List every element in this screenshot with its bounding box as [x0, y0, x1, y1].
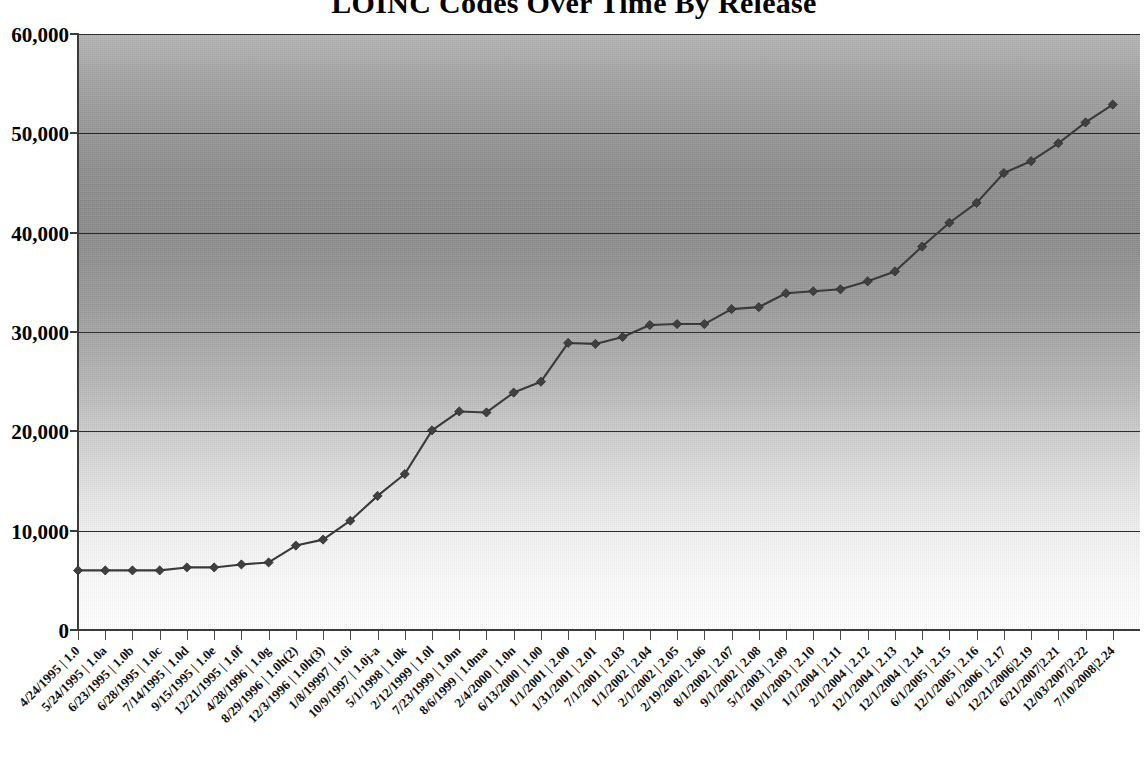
y-axis-tick-label: 20,000	[0, 420, 69, 445]
y-axis-tick-label: 0	[0, 619, 69, 644]
x-axis-tick-mark	[813, 631, 814, 640]
x-axis-tick-mark	[650, 631, 651, 640]
x-axis-tick-mark	[840, 631, 841, 640]
x-axis-tick-mark	[241, 631, 242, 640]
x-axis-tick-mark	[786, 631, 787, 640]
x-axis-tick-mark	[759, 631, 760, 640]
data-series-layer	[78, 34, 1140, 630]
data-point-marker[interactable]	[73, 566, 82, 575]
data-point-marker[interactable]	[754, 303, 763, 312]
x-axis-tick-mark	[187, 631, 188, 640]
series-line	[78, 105, 1113, 571]
x-axis-tick-mark	[677, 631, 678, 640]
x-axis-tick-mark	[296, 631, 297, 640]
x-axis-tick-mark	[514, 631, 515, 640]
x-axis-tick-mark	[1058, 631, 1059, 640]
x-axis-tick-mark	[1004, 631, 1005, 640]
x-axis-tick-mark	[214, 631, 215, 640]
y-axis-tick-label: 30,000	[0, 321, 69, 346]
x-axis-tick-mark	[132, 631, 133, 640]
x-axis-tick-mark	[78, 631, 79, 640]
x-axis-tick-mark	[405, 631, 406, 640]
data-point-marker[interactable]	[210, 563, 219, 572]
data-point-marker[interactable]	[700, 319, 709, 328]
x-axis-tick-mark	[568, 631, 569, 640]
x-axis-tick-mark	[160, 631, 161, 640]
x-axis-tick-mark	[541, 631, 542, 640]
x-axis-tick-mark	[350, 631, 351, 640]
y-axis-tick-label: 40,000	[0, 222, 69, 247]
y-axis-tick-label: 60,000	[0, 23, 69, 48]
data-point-marker[interactable]	[101, 566, 110, 575]
x-axis-tick-mark	[922, 631, 923, 640]
data-point-marker[interactable]	[237, 560, 246, 569]
y-axis-tick-label: 50,000	[0, 122, 69, 147]
data-point-marker[interactable]	[618, 332, 627, 341]
x-axis-tick-mark	[1031, 631, 1032, 640]
data-point-marker[interactable]	[645, 320, 654, 329]
x-axis-tick-mark	[623, 631, 624, 640]
x-axis-tick-mark	[486, 631, 487, 640]
data-point-marker[interactable]	[182, 563, 191, 572]
data-point-marker[interactable]	[809, 287, 818, 296]
x-axis-tick-mark	[949, 631, 950, 640]
x-axis-tick-mark	[868, 631, 869, 640]
data-point-marker[interactable]	[155, 566, 164, 575]
x-axis-tick-mark	[704, 631, 705, 640]
data-point-marker[interactable]	[863, 277, 872, 286]
x-axis-tick-mark	[269, 631, 270, 640]
x-axis-tick-mark	[732, 631, 733, 640]
chart-title: LOINC Codes Over Time By Release	[0, 0, 1148, 20]
data-point-marker[interactable]	[727, 305, 736, 314]
chart-container: LOINC Codes Over Time By Release 010,000…	[0, 0, 1148, 773]
x-axis-tick-mark	[105, 631, 106, 640]
data-point-marker[interactable]	[128, 566, 137, 575]
data-point-marker[interactable]	[781, 289, 790, 298]
data-point-marker[interactable]	[672, 319, 681, 328]
x-axis-tick-mark	[378, 631, 379, 640]
x-axis-tick-mark	[1113, 631, 1114, 640]
data-point-marker[interactable]	[591, 339, 600, 348]
data-point-marker[interactable]	[836, 285, 845, 294]
x-axis-tick-mark	[459, 631, 460, 640]
x-axis-tick-mark	[595, 631, 596, 640]
x-axis-tick-mark	[432, 631, 433, 640]
x-axis-tick-mark	[323, 631, 324, 640]
x-axis-tick-mark	[1086, 631, 1087, 640]
x-axis-tick-mark	[895, 631, 896, 640]
y-axis-tick-label: 10,000	[0, 520, 69, 545]
x-axis-tick-mark	[977, 631, 978, 640]
